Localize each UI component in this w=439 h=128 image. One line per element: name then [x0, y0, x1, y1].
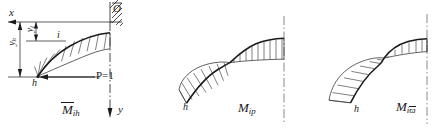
diagram3-canvas	[310, 0, 439, 128]
diagram1-canvas	[0, 0, 160, 128]
diagram1-caption-base: M	[62, 103, 73, 116]
diagram2-node-h-label: h	[183, 102, 188, 112]
diagram2-moment-curve	[187, 38, 285, 103]
dim-yh-label: yh	[7, 38, 18, 46]
figure-root: x O y h i yi yh P=1 Mih	[0, 0, 439, 128]
dim-yi-sub: i	[28, 26, 35, 28]
diagram2-caption: Mip	[238, 101, 256, 116]
dim-yi-base: y	[24, 28, 35, 32]
diagram3-moment-curve	[351, 39, 428, 103]
diagram1-caption: Mih	[62, 103, 80, 118]
diagram-m-ip: h Mip	[160, 0, 310, 128]
diagram3-lower-hatching	[329, 59, 383, 103]
diagram3-lower-outer-boundary	[329, 58, 384, 100]
diagram1-caption-sub: ih	[73, 108, 80, 118]
dim-yh-sub: h	[10, 38, 17, 41]
diagram3-caption-sub2: ϖ	[409, 106, 415, 115]
diagram-m-i-omega-bar: h Miϖ	[310, 0, 439, 128]
diagram2-caption-sub: ip	[249, 106, 256, 116]
y-axis-arrow	[108, 108, 113, 118]
diagram3-caption: Miϖ	[396, 100, 416, 115]
dim-yh-base: y	[6, 41, 17, 45]
x-axis-arrow	[8, 20, 16, 25]
diagram-m-bar-ih: x O y h i yi yh P=1 Mih	[0, 0, 160, 128]
dim-yi-label: yi	[25, 26, 36, 32]
load-label: P=1	[96, 70, 114, 81]
section-i-label: i	[57, 30, 60, 40]
axis-y-label: y	[118, 104, 123, 115]
origin-label: O	[113, 3, 121, 14]
diagram3-lower-end-ordinate	[329, 100, 351, 103]
diagram2-caption-base: M	[238, 100, 249, 115]
axis-x-label: x	[9, 7, 14, 18]
diagram3-node-h-label: h	[354, 104, 359, 114]
node-h-label: h	[32, 78, 37, 88]
diagram2-upper-chord	[230, 59, 284, 62]
diagram3-upper-chord	[384, 52, 427, 59]
diagram3-caption-base: M	[396, 99, 407, 114]
